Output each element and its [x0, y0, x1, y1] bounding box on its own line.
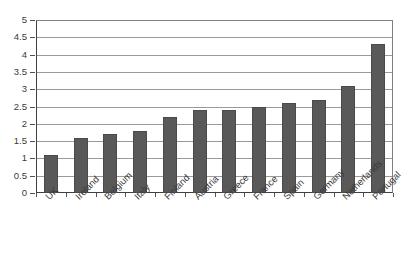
y-tick-mark: [30, 20, 35, 21]
x-tick-mark: [393, 193, 394, 197]
y-tick-label: 2.5: [14, 102, 27, 112]
y-tick-label: 2: [22, 119, 27, 129]
y-axis: 00.511.522.533.544.55: [0, 20, 32, 193]
y-tick-label: 4: [22, 50, 27, 60]
x-tick-mark: [215, 193, 216, 197]
x-tick-mark: [244, 193, 245, 197]
x-tick-mark: [96, 193, 97, 197]
x-tick-mark: [36, 193, 37, 197]
y-tick-label: 4.5: [14, 33, 27, 43]
y-tick-label: 1.5: [14, 136, 27, 146]
y-tick-mark: [30, 89, 35, 90]
y-tick-mark: [30, 124, 35, 125]
y-tick-label: 3: [22, 84, 27, 94]
x-tick-mark: [363, 193, 364, 197]
y-tick-label: 1: [22, 154, 27, 164]
y-tick-label: 3.5: [14, 67, 27, 77]
x-tick-mark: [185, 193, 186, 197]
bar-chart: 00.511.522.533.544.55 UKIrelandBelgiumIt…: [0, 0, 413, 262]
x-tick-mark: [66, 193, 67, 197]
bar: [312, 100, 326, 193]
x-tick-mark: [304, 193, 305, 197]
y-tick-mark: [30, 193, 35, 194]
y-tick-mark: [30, 55, 35, 56]
x-tick-mark: [334, 193, 335, 197]
y-tick-mark: [30, 158, 35, 159]
x-tick-mark: [155, 193, 156, 197]
y-tick-label: 5: [22, 15, 27, 25]
x-axis-labels: UKIrelandBelgiumItalyFinlandAustriaGreec…: [36, 198, 413, 262]
y-tick-label: 0: [22, 188, 27, 198]
x-tick-mark: [125, 193, 126, 197]
y-tick-mark: [30, 72, 35, 73]
y-tick-mark: [30, 141, 35, 142]
y-tick-mark: [30, 107, 35, 108]
y-tick-label: 0.5: [14, 171, 27, 181]
y-tick-mark: [30, 176, 35, 177]
y-tick-mark: [30, 37, 35, 38]
x-tick-mark: [274, 193, 275, 197]
